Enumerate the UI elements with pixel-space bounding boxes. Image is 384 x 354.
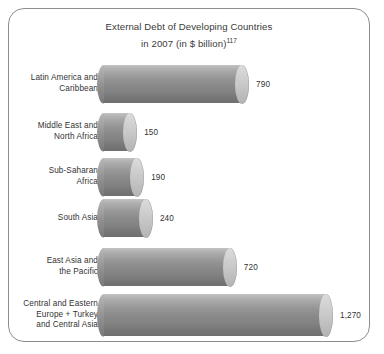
bar-left-edge: [97, 65, 111, 104]
bar-end-cap: [139, 199, 153, 238]
bar-row: Latin America and Caribbean790: [9, 65, 369, 103]
category-label: Central and Eastern Europe + Turkey and …: [0, 299, 98, 331]
bar-row: Central and Eastern Europe + Turkey and …: [9, 294, 369, 336]
bar-end-cap: [235, 65, 249, 104]
bar-cylinder: [104, 294, 326, 336]
bar-left-edge: [97, 158, 111, 197]
category-label: Sub-Saharan Africa: [0, 166, 98, 187]
bar-row: Middle East and North Africa150: [9, 113, 369, 151]
bar-cylinder: [104, 113, 130, 151]
bar-end-cap: [319, 294, 333, 337]
bar-row: Sub-Saharan Africa190: [9, 158, 369, 196]
chart-frame: External Debt of Developing Countries in…: [8, 8, 370, 342]
bar-left-edge: [97, 248, 111, 287]
category-label: East Asia and the Pacific: [0, 256, 98, 277]
category-label: South Asia: [0, 213, 98, 224]
category-label: Latin America and Caribbean: [0, 73, 98, 94]
bar-left-edge: [97, 199, 111, 238]
bar-cylinder: [104, 65, 242, 103]
bar-chart-plot: Latin America and Caribbean790Middle Eas…: [9, 9, 369, 341]
bar-end-cap: [130, 158, 144, 197]
bar-row: South Asia240: [9, 199, 369, 237]
bar-value-label: 190: [151, 173, 165, 182]
bar-cylinder: [104, 158, 137, 196]
bar-cylinder: [104, 199, 146, 237]
category-label: Middle East and North Africa: [0, 121, 98, 142]
bar-value-label: 240: [160, 214, 174, 223]
bar-row: East Asia and the Pacific720: [9, 248, 369, 286]
bar-end-cap: [223, 248, 237, 287]
bar-value-label: 150: [144, 128, 158, 137]
bar-value-label: 720: [244, 263, 258, 272]
bar-end-cap: [123, 113, 137, 152]
bar-value-label: 1,270: [340, 311, 361, 320]
bar-value-label: 790: [256, 80, 270, 89]
bar-left-edge: [97, 113, 111, 152]
bar-cylinder: [104, 248, 230, 286]
bar-left-edge: [97, 294, 111, 337]
